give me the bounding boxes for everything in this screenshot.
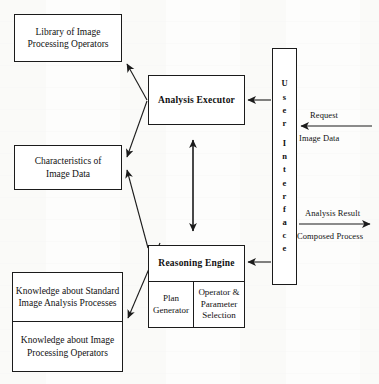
node-label: Knowledge about Standard Image Analysis … <box>16 285 119 310</box>
edge-label-request: Request <box>310 110 338 120</box>
edge-label-analysis-result: Analysis Result <box>305 208 360 218</box>
ui-letter: c <box>283 229 287 242</box>
node-label: Plan Generator <box>153 293 189 316</box>
node-plan-generator[interactable]: Plan Generator <box>148 282 193 328</box>
ui-letter: r <box>283 190 287 203</box>
ui-letter: n <box>282 150 287 163</box>
node-reasoning-engine[interactable]: Reasoning Engine <box>148 245 245 282</box>
node-label: Characteristics of Image Data <box>35 155 102 180</box>
edge-label-image-data: Image Data <box>299 133 339 143</box>
edge-executor-to-library <box>127 64 147 100</box>
node-library-of-image-processing-operators[interactable]: Library of Image Processing Operators <box>14 14 122 62</box>
node-label: Reasoning Engine <box>158 257 234 269</box>
node-operator-parameter-selection[interactable]: Operator & Parameter Selection <box>193 282 245 328</box>
ui-letter: s <box>283 91 286 104</box>
ui-letter: I <box>283 137 286 150</box>
ui-letter: e <box>283 177 287 190</box>
edge-label-composed-process: Composed Process <box>297 231 363 241</box>
ui-letter: f <box>283 203 286 216</box>
ui-letter: a <box>282 216 286 229</box>
edge-reasoning-to-characteristics <box>127 170 148 248</box>
ui-letter: U <box>281 77 287 90</box>
ui-letter: r <box>283 117 287 130</box>
node-label: Knowledge about Image Processing Operato… <box>21 334 114 359</box>
edge-executor-to-characteristics <box>127 101 147 157</box>
node-label: Analysis Executor <box>158 94 235 106</box>
node-knowledge-about-image-processing-operators[interactable]: Knowledge about Image Processing Operato… <box>12 322 123 372</box>
ui-letter: e <box>283 104 287 117</box>
node-knowledge-about-standard-image-analysis-processes[interactable]: Knowledge about Standard Image Analysis … <box>12 272 123 322</box>
node-user-interface[interactable]: U s e r I n t e r f a c e <box>272 48 297 285</box>
node-characteristics-of-image-data[interactable]: Characteristics of Image Data <box>14 145 122 190</box>
ui-letter: t <box>283 163 286 176</box>
node-label: Operator & Parameter Selection <box>198 287 239 322</box>
node-label: Library of Image Processing Operators <box>28 26 109 51</box>
ui-letter: e <box>283 242 287 255</box>
diagram-canvas: Library of Image Processing Operators Ch… <box>0 0 379 384</box>
node-analysis-executor[interactable]: Analysis Executor <box>148 75 245 125</box>
